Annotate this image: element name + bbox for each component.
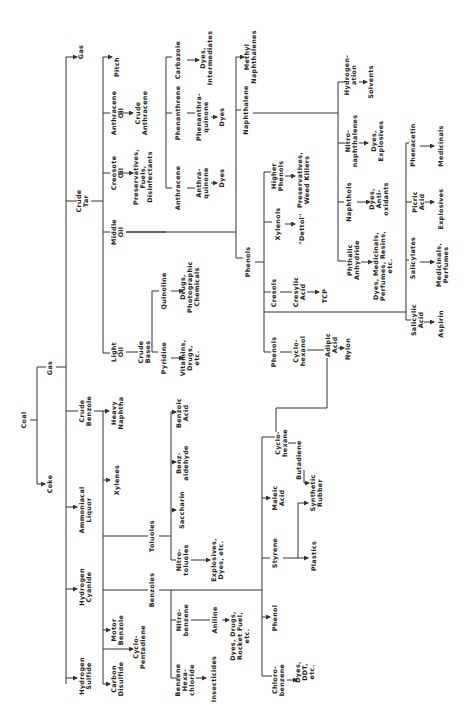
node-anthraquinone: Anthra- quinone [196,167,210,198]
node-salicylic-acid: Salicylic Acid [411,304,425,336]
node-vitamins: Vitamins, Drugs, etc. [180,340,202,377]
node-dyes-intermediates: Dyes, Intermediates [200,31,214,86]
node-medicinals: Medicinals [438,125,445,166]
node-heavy-naphtha: Heavy Naphtha [111,397,125,430]
node-styrene: Styrene [272,538,279,568]
node-benzoles: Benzoles [149,573,156,608]
node-hydrogen-cyanide: Hydrogen Cyanide [79,568,93,606]
node-aniline: Aniline [212,606,219,633]
node-methyl-naphthalenes: Methyl Naphthalenes [244,30,258,84]
node-pyridine: Pyridine [161,342,168,374]
node-drugs-photo: Drugs, Photographic Chemicals [180,261,202,313]
node-dyes-a: Dyes [219,169,226,188]
node-saccharin: Saccharin [179,491,186,529]
node-explosives-dyes: Explosives, Dyes, etc. [211,538,225,582]
node-benzene-hexachloride: Benzene Hexa- chloride [175,664,197,697]
node-higher-phenols: Higher Phenols [271,161,285,192]
node-phthalic-anhydride: Phthalic Anhydride [347,240,361,280]
node-xylenes: Xylenes [114,465,121,495]
node-tcp: TCP [322,289,329,304]
node-middle-oil: Middle Oil [111,219,125,245]
node-dyes-drugs-rocket: Dyes, Drugs, Rocket Fuel, etc. [230,611,252,661]
node-butadiene: Butadiene [296,440,303,479]
node-naphthalene: Naphthalene [243,85,250,134]
node-ammoniacal-liquor: Ammoniacal Liquor [79,487,93,534]
node-creosote-oil: Creosote Oil [111,156,125,191]
node-nitrotoluoles: Nitro- toluoles [176,544,190,575]
node-solvents: Solvents [368,65,375,99]
node-gas2: Gas [78,45,85,59]
node-benzaldehyde: Benz- aldehyde [176,445,190,480]
node-synthetic-rubber: Synthetic Rubber [310,475,324,512]
node-quinoline: Quinoline [161,272,168,309]
node-phenanthraquinone: Phenanthra- quinone [196,93,210,141]
node-dyes-ddt: Dyes, DDT, etc. [295,661,317,683]
node-explosives: Explosives [438,189,445,230]
node-pitch: Pitch [114,57,121,77]
node-medicinals-perfumes: Medicinals, Perfumes [436,243,450,287]
node-salicylates: Salicylates [410,237,417,279]
node-chlorobenzene: Chloro- benzene [272,664,286,697]
node-nylon: Nylon [345,338,352,360]
node-crude-anthracene: Crude Anthracene [135,91,149,136]
node-carbon-disulfide: Carbon Disulfide [111,662,125,697]
node-coke: Coke [47,475,54,494]
node-dyes-medicinals-perfumes: Dyes, Medicinals, Perfumes, Resins, etc. [373,231,395,301]
node-phenacetin: Phenacetin [410,123,417,166]
node-dyes-b: Dyes [219,108,226,127]
node-gas: Gas [47,361,54,375]
node-crude-benzole: Crude Benzole [79,396,93,427]
node-cresylic-acid: Cresylic Acid [293,277,307,308]
node-light-oil: Light Oil [111,342,125,362]
node-carbazole: Carbazole [175,41,182,79]
node-phenols-bottom: Phenols [271,337,278,368]
node-anthracene-oil: Anthracene Oil [111,91,125,136]
node-phenanthrene: Phenanthrene [175,86,182,141]
node-insecticides: Insecticides [211,656,218,702]
node-naphthols: Naphthols [346,182,353,221]
node-crude-bases: Crude Bases [138,341,152,364]
node-adipic-acid: Adipic Acid [325,333,339,357]
coal-derivatives-diagram: CoalGasCokeCrude TarGasCrude BenzoleAmmo… [0,0,464,706]
node-coal: Coal [21,412,28,429]
node-xylenols: Xylenols [275,208,282,241]
connector-lines [0,0,464,706]
node-dyes-explosives: Dyes, Explosives [371,121,385,162]
node-anthracene: Anthracene [175,166,182,211]
node-nitronaphthalenes: Nitro- naphthalenes [345,115,359,168]
node-hydrogen-sulfide: Hydrogen Sulfide [79,657,93,695]
node-nitrobenzene: Nitro- benzene [176,604,190,637]
node-motor-benzole: Motor Benzole [111,615,125,646]
node-picric-acid: Picric Acid [412,191,426,213]
node-dyes-antioxidants: Dyes, Anti- oxidants [369,182,391,215]
node-plastics: Plastics [311,541,318,571]
node-aspirin: Aspirin [438,310,445,338]
node-cyclohexane: Cyclo- hexane [275,429,289,457]
node-maleic-acid: Maleic Acid [272,486,286,511]
node-cresols: Cresols [271,279,278,307]
node-preservatives-weed: Preservatives, Weed Killers [297,152,311,208]
node-phenols-top: Phenols [245,247,252,278]
node-phenol: Phenol [272,605,279,632]
node-hydrogenation: Hydrogen- ation [344,55,358,95]
node-cyclopentadiene: Cyclo- Pentadiene [133,625,147,669]
node-dettol: "Dettol" [299,213,306,244]
node-cyclohexanol: Cyclo- hexanol [293,336,307,367]
node-toluoles: Toluoles [149,520,156,552]
node-benzoic-acid: Benzoic Acid [176,398,190,428]
node-preservatives-fuels: Preservatives, Fuels, Disinfectants [133,149,155,205]
node-crude-tar: Crude Tar [76,190,90,213]
